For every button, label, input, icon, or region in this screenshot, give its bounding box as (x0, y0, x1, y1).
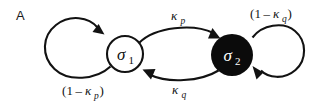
node-sigma-2-subscript: 2 (235, 55, 241, 67)
self-loop-label-q-minus: – (263, 6, 271, 21)
node-sigma-2-symbol: σ (224, 46, 233, 65)
self-loop-label-p-minus: – (75, 83, 83, 98)
node-sigma-2-circle (211, 34, 253, 76)
edge-label-kappa-p: κ p (171, 8, 186, 26)
self-loop-label-p-subscript: p (93, 91, 99, 101)
edge-sigma1-to-sigma2-curve (140, 28, 214, 43)
self-loop-sigma1 (45, 18, 111, 78)
self-loop-label-p-one: 1 (67, 83, 74, 98)
self-loop-label-one-minus-kappa-q: ( 1 – κ q ) (250, 6, 292, 24)
self-loop-label-q-subscript: q (282, 14, 287, 24)
self-loop-sigma2-arrowhead (253, 66, 264, 80)
self-loop-label-one-minus-kappa-p: ( 1 – κ p ) (62, 83, 104, 101)
edge-sigma2-to-sigma1-curve (151, 71, 219, 81)
edge-label-kappa-q-kappa: κ (172, 82, 179, 97)
self-loop-label-q-one: 1 (255, 6, 262, 21)
node-sigma-1: σ 1 (107, 36, 143, 72)
edge-label-kappa-p-kappa: κ (171, 8, 178, 23)
self-loop-sigma2 (253, 25, 305, 79)
self-loop-sigma2-curve (253, 25, 305, 76)
edge-label-kappa-q: κ q (172, 82, 187, 100)
node-sigma-2: σ 2 (211, 34, 253, 76)
edge-label-kappa-p-subscript: p (180, 16, 186, 26)
self-loop-label-p-kappa: κ (85, 83, 92, 98)
edge-sigma2-to-sigma1-arrowhead (143, 69, 156, 80)
self-loop-label-p-close-paren: ) (100, 83, 104, 98)
node-sigma-1-subscript: 1 (129, 54, 135, 66)
self-loop-label-q-close-paren: ) (288, 6, 292, 21)
edge-sigma1-to-sigma2-arrowhead (208, 28, 221, 39)
edge-sigma2-to-sigma1 (143, 69, 219, 80)
self-loop-label-q-kappa: κ (273, 6, 280, 21)
edge-sigma1-to-sigma2 (140, 28, 221, 43)
edge-label-kappa-q-subscript: q (182, 90, 187, 100)
self-loop-sigma1-curve (45, 18, 111, 78)
node-sigma-1-symbol: σ (117, 45, 126, 64)
markov-chain-diagram: A σ 1 σ 2 (0, 0, 312, 103)
panel-letter-a: A (16, 8, 25, 23)
diagram-canvas: A σ 1 σ 2 (0, 0, 312, 103)
